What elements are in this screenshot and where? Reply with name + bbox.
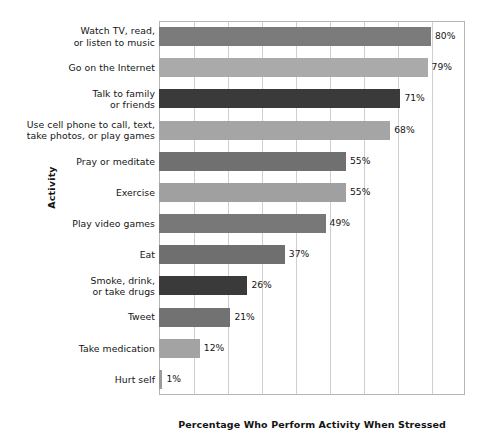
x-axis-title: Percentage Who Perform Activity When Str… (159, 419, 465, 430)
bar-row[interactable]: 12% (159, 339, 465, 358)
bar-row[interactable]: 68% (159, 121, 465, 140)
category-label-line: Exercise (116, 187, 155, 198)
bar-value-label: 1% (166, 373, 181, 384)
category-label: Pray or meditate (18, 156, 155, 167)
bar-value-label: 55% (350, 155, 370, 166)
bar-value-label: 49% (330, 217, 350, 228)
bar-row[interactable]: 21% (159, 308, 465, 327)
bar[interactable] (159, 152, 346, 171)
bar-value-label: 80% (435, 30, 455, 41)
category-label-line: Pray or meditate (76, 156, 155, 167)
bar-value-label: 26% (251, 279, 271, 290)
category-label-line: Play video games (72, 218, 155, 229)
bar-value-label: 21% (234, 311, 254, 322)
category-label-line: Smoke, drink, (90, 275, 155, 286)
bar-row[interactable]: 1% (159, 370, 465, 389)
category-label-line: take photos, or play games (18, 130, 155, 141)
bar[interactable] (159, 370, 162, 389)
bar-value-label: 55% (350, 186, 370, 197)
bar-value-label: 68% (394, 124, 414, 135)
bar[interactable] (159, 308, 230, 327)
bar[interactable] (159, 121, 390, 140)
category-label-line: Talk to family (93, 88, 155, 99)
category-label-line: Watch TV, read, (81, 25, 156, 36)
bar-row[interactable]: 49% (159, 214, 465, 233)
category-label: Go on the Internet (18, 62, 155, 73)
bar[interactable] (159, 58, 428, 77)
category-label-line: Eat (140, 249, 155, 260)
bar-value-label: 37% (289, 248, 309, 259)
bar-value-label: 12% (204, 342, 224, 353)
category-label: Eat (18, 249, 155, 260)
category-label-line: or take drugs (18, 286, 155, 297)
category-label-line: or listen to music (18, 37, 155, 48)
bar[interactable] (159, 339, 200, 358)
bar[interactable] (159, 245, 285, 264)
bar-row[interactable]: 80% (159, 27, 465, 46)
bar[interactable] (159, 276, 247, 295)
category-label-line: Take medication (79, 343, 155, 354)
bar[interactable] (159, 89, 400, 108)
bar-row[interactable]: 71% (159, 89, 465, 108)
category-label-line: Use cell phone to call, text, (27, 119, 155, 130)
category-label-line: Tweet (128, 311, 155, 322)
bar-chart: Activity Watch TV, read,or listen to mus… (0, 0, 489, 440)
category-label: Exercise (18, 187, 155, 198)
bar-row[interactable]: 26% (159, 276, 465, 295)
bar-value-label: 79% (432, 61, 452, 72)
bar[interactable] (159, 27, 431, 46)
bar[interactable] (159, 214, 326, 233)
category-label: Take medication (18, 343, 155, 354)
bar-row[interactable]: 79% (159, 58, 465, 77)
category-label: Tweet (18, 311, 155, 322)
bar-value-label: 71% (404, 92, 424, 103)
category-label: Smoke, drink,or take drugs (18, 275, 155, 298)
bar-row[interactable]: 55% (159, 152, 465, 171)
category-label-line: or friends (18, 99, 155, 110)
category-label: Play video games (18, 218, 155, 229)
bar-row[interactable]: 37% (159, 245, 465, 264)
category-label: Watch TV, read,or listen to music (18, 25, 155, 48)
category-label: Use cell phone to call, text,take photos… (18, 119, 155, 142)
category-label-line: Go on the Internet (69, 62, 155, 73)
category-label-line: Hurt self (115, 374, 155, 385)
bar-row[interactable]: 55% (159, 183, 465, 202)
category-label: Talk to familyor friends (18, 88, 155, 111)
category-axis-labels: Watch TV, read,or listen to musicGo on t… (18, 21, 155, 395)
bars-layer: 80%79%71%68%55%55%49%37%26%21%12%1% (159, 21, 465, 395)
category-label: Hurt self (18, 374, 155, 385)
bar[interactable] (159, 183, 346, 202)
